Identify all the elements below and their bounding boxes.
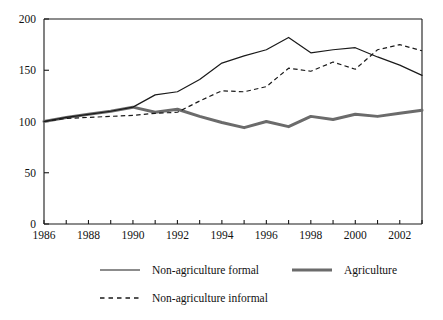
x-tick-label-1988: 1988 bbox=[77, 229, 100, 241]
x-tick-label-1998: 1998 bbox=[299, 229, 322, 241]
x-tick-label-1994: 1994 bbox=[210, 229, 233, 241]
legend-label-agriculture: Agriculture bbox=[344, 264, 397, 277]
x-tick-label-2000: 2000 bbox=[344, 229, 367, 241]
legend-label-non-agriculture-formal: Non-agriculture formal bbox=[152, 264, 259, 277]
x-tick-label-1992: 1992 bbox=[166, 229, 189, 241]
y-tick-label-100: 100 bbox=[19, 116, 37, 128]
y-tick-label-200: 200 bbox=[19, 13, 37, 25]
chart-figure: 200150100500 198619881990199219941996199… bbox=[0, 0, 443, 320]
x-tick-label-1990: 1990 bbox=[121, 229, 144, 241]
line-chart: 200150100500 198619881990199219941996199… bbox=[0, 0, 443, 320]
x-tick-label-1996: 1996 bbox=[255, 229, 278, 241]
y-tick-label-150: 150 bbox=[19, 64, 37, 76]
x-tick-label-2002: 2002 bbox=[388, 229, 411, 241]
x-tick-label-1986: 1986 bbox=[33, 229, 56, 241]
legend-label-non-agriculture-informal: Non-agriculture informal bbox=[152, 292, 268, 305]
y-tick-label-50: 50 bbox=[25, 167, 37, 179]
x-axis-tick-labels: 198619881990199219941996199820002002 bbox=[33, 229, 412, 241]
